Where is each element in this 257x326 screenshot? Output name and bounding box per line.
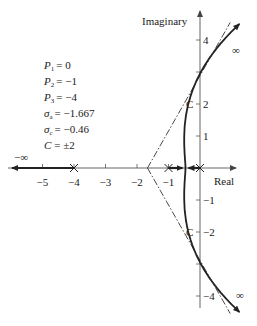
- root-locus-plot: P1= 0P2= −1P3= −4σa= −1.667σc= −0.46C= ±…: [0, 0, 257, 326]
- parameter-subscript: a: [49, 113, 53, 121]
- neg-infinity-label: −∞: [14, 151, 28, 163]
- parameter-list: P1= 0P2= −1P3= −4σa= −1.667σc= −0.46C= ±…: [43, 59, 95, 151]
- parameter-line: P2= −1: [43, 75, 77, 89]
- infinity-label-lower: ∞: [236, 289, 244, 301]
- y-tick-label: −1: [203, 194, 215, 206]
- parameter-value: = −4: [56, 91, 77, 103]
- parameter-value: = −1.667: [55, 107, 95, 119]
- y-tick-label: −2: [203, 226, 215, 238]
- parameter-symbol: C: [44, 139, 52, 151]
- x-tick-label: −3: [100, 176, 112, 188]
- x-tick-label: −2: [131, 176, 143, 188]
- crossing-label-lower: C: [186, 226, 193, 238]
- parameter-subscript: c: [49, 129, 52, 137]
- x-tick-label: −4: [68, 176, 80, 188]
- parameter-value: = 0: [56, 59, 71, 71]
- y-tick-label: 4: [203, 34, 209, 46]
- parameter-value: = −0.46: [55, 123, 90, 135]
- x-tick-label: −5: [37, 176, 49, 188]
- parameter-value: = ±2: [54, 139, 75, 151]
- crossing-label-upper: C: [186, 98, 193, 110]
- real-axis-label: Real: [214, 175, 234, 187]
- parameter-line: σc= −0.46: [44, 123, 89, 137]
- y-tick-label: 2: [203, 98, 209, 110]
- parameter-subscript: 1: [51, 65, 55, 73]
- parameter-line: σa= −1.667: [44, 107, 95, 121]
- parameter-subscript: 2: [51, 81, 55, 89]
- infinity-label-upper: ∞: [232, 44, 240, 56]
- parameter-value: = −1: [56, 75, 77, 87]
- y-tick-label: 1: [203, 130, 209, 142]
- parameter-line: P1= 0: [43, 59, 71, 73]
- parameter-subscript: 3: [51, 97, 55, 105]
- asymptote-upper: [147, 22, 230, 168]
- x-tick-label: −1: [163, 176, 175, 188]
- parameter-line: P3= −4: [43, 91, 77, 105]
- asymptote-lower: [147, 168, 230, 314]
- y-tick-label: −4: [203, 290, 215, 302]
- parameter-line: C= ±2: [44, 139, 75, 151]
- imaginary-axis-label: Imaginary: [142, 15, 188, 27]
